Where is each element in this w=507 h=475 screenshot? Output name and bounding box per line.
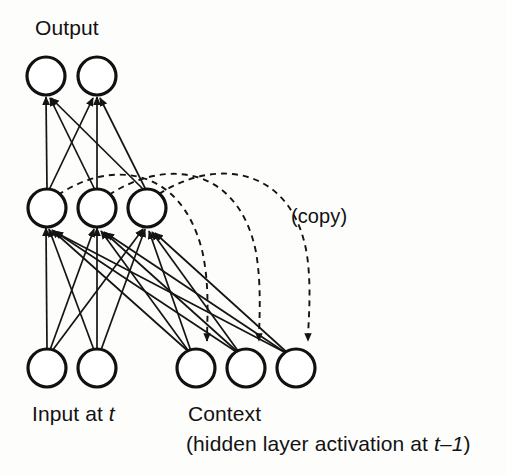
input-layer-label-text: Input at <box>32 402 109 425</box>
link-h1-o0 <box>50 98 95 190</box>
input-layer-label: Input at t <box>32 402 115 426</box>
input-node-0[interactable] <box>28 349 66 387</box>
context-layer-sublabel: (hidden layer activation at t–1) <box>186 432 471 456</box>
output-node-1[interactable] <box>78 57 116 95</box>
link-h0-o0 <box>46 97 47 189</box>
context-node-0[interactable] <box>177 349 215 387</box>
copy-annotation-label: (copy) <box>291 205 347 228</box>
input-node-1[interactable] <box>78 349 116 387</box>
input-layer-nodes <box>28 349 116 387</box>
context-node-2[interactable] <box>277 349 315 387</box>
context-node-1[interactable] <box>227 349 265 387</box>
context-sublabel-close: ) <box>463 432 470 455</box>
context-layer-label: Context <box>188 402 261 426</box>
output-layer-label: Output <box>35 16 99 40</box>
link-i1-h2 <box>101 229 145 350</box>
output-layer-nodes <box>27 57 116 95</box>
context-sublabel-open: (hidden layer activation at <box>186 432 434 455</box>
link-i0-h0 <box>46 228 47 349</box>
hidden-node-2[interactable] <box>128 189 166 227</box>
input-layer-label-time: t <box>109 402 115 425</box>
link-h0-o1 <box>49 98 93 190</box>
hidden-node-0[interactable] <box>28 189 66 227</box>
context-sublabel-time: t–1 <box>434 432 464 455</box>
context-layer-nodes <box>177 349 315 387</box>
link-c2-h1 <box>106 233 289 355</box>
link-h2-o1 <box>100 98 146 190</box>
link-c1-h0 <box>54 231 238 353</box>
hidden-layer-nodes <box>28 189 166 227</box>
elman-network-figure: Output (copy) Input at t Context (hidden… <box>0 0 507 475</box>
output-node-0[interactable] <box>27 57 65 95</box>
hidden-node-1[interactable] <box>78 189 116 227</box>
